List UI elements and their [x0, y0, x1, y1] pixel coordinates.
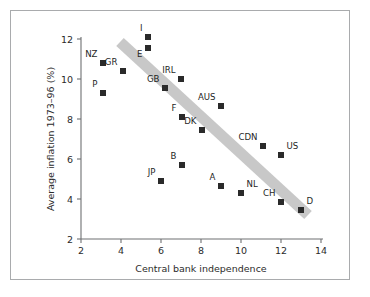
- data-point-marker: [145, 45, 151, 51]
- data-point-label: D: [307, 196, 314, 206]
- y-tick-label: 8: [67, 114, 73, 125]
- data-point-label: E: [137, 49, 142, 59]
- data-point-marker: [218, 183, 224, 189]
- x-tick-label: 12: [275, 245, 287, 256]
- data-point-label: US: [287, 141, 299, 151]
- y-tick-label: 10: [61, 74, 73, 85]
- data-point-label: NZ: [85, 49, 97, 59]
- x-tick-label: 8: [198, 245, 204, 256]
- data-point-marker: [278, 199, 284, 205]
- data-point-marker: [179, 162, 185, 168]
- data-point-label: CDN: [238, 132, 257, 142]
- data-point-marker: [162, 85, 168, 91]
- y-tick-label: 2: [67, 234, 73, 245]
- data-point-marker: [145, 34, 151, 40]
- data-point-label: GB: [147, 74, 160, 84]
- data-point-label: B: [171, 151, 177, 161]
- data-point-label: JP: [147, 167, 156, 177]
- data-point-label: CH: [263, 188, 275, 198]
- data-point-label: AUS: [198, 92, 216, 102]
- data-point-marker: [238, 190, 244, 196]
- scatter-chart: 246810121424681012Central bank independe…: [0, 0, 370, 297]
- x-tick-label: 4: [118, 245, 124, 256]
- data-point-label: DK: [184, 116, 197, 126]
- data-point-label: NL: [247, 179, 258, 189]
- data-point-marker: [178, 76, 184, 82]
- data-point-label: P: [92, 79, 97, 89]
- y-tick-label: 12: [61, 34, 73, 45]
- data-point-label: IRL: [162, 65, 176, 75]
- chart-canvas: 246810121424681012Central bank independe…: [0, 0, 370, 297]
- data-point-marker: [120, 68, 126, 74]
- x-tick-label: 2: [78, 245, 84, 256]
- data-point-marker: [278, 152, 284, 158]
- x-tick-label: 14: [315, 245, 327, 256]
- trend-band: [120, 42, 308, 215]
- data-point-marker: [298, 207, 304, 213]
- data-point-marker: [260, 143, 266, 149]
- data-point-marker: [158, 178, 164, 184]
- y-tick-label: 4: [67, 194, 73, 205]
- y-axis-title: Average inflation 1973–96 (%): [45, 67, 56, 211]
- x-axis-title: Central bank independence: [135, 263, 267, 274]
- data-point-marker: [100, 90, 106, 96]
- data-point-label: GR: [105, 57, 118, 67]
- data-point-label: A: [210, 172, 216, 182]
- data-point-marker: [199, 127, 205, 133]
- data-point-label: I: [140, 23, 143, 33]
- data-point-marker: [218, 103, 224, 109]
- y-tick-label: 6: [67, 154, 73, 165]
- data-point-label: F: [172, 103, 177, 113]
- x-tick-label: 6: [158, 245, 164, 256]
- x-tick-label: 10: [235, 245, 247, 256]
